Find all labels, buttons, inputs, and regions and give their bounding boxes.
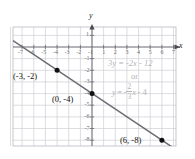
- x-tick-label--7: -7: [18, 49, 23, 55]
- y-tick-label--5: -5: [85, 101, 90, 107]
- x-tick-label-5: 5: [149, 49, 152, 55]
- equation-connector-or: or: [131, 72, 138, 81]
- graph-figure: x y -7 -6 -5 -4 -3 -2 -1 1 2 3 4 5 6 7 1…: [0, 0, 195, 159]
- equation-standard-form: 3y = -2x - 12: [108, 59, 152, 68]
- point-label-0-minus4: (0, -4): [52, 95, 73, 104]
- y-tick-label-1: 1: [86, 31, 89, 37]
- y-tick-label--2: -2: [85, 67, 90, 73]
- y-tick-label--6: -6: [85, 113, 90, 119]
- x-tick-label--2: -2: [76, 49, 81, 55]
- y-tick-label--8: -8: [85, 136, 90, 142]
- y-tick-label--4: -4: [85, 90, 90, 96]
- x-tick-label-6: 6: [160, 49, 163, 55]
- y-tick-label--7: -7: [85, 125, 90, 131]
- y-tick-label--1: -1: [85, 55, 90, 61]
- data-point-marker: [55, 68, 60, 73]
- x-tick-label-4: 4: [137, 49, 140, 55]
- x-tick-label-1: 1: [102, 49, 105, 55]
- point-label-minus3-minus2: (-3, -2): [13, 72, 37, 81]
- x-tick-label-7: 7: [172, 49, 175, 55]
- x-tick-label-2: 2: [114, 49, 117, 55]
- equation-equals-sign: =: [116, 87, 124, 97]
- equation-constant: - 4: [136, 87, 147, 97]
- data-point-marker: [90, 91, 95, 96]
- point-label-6-minus8: (6, -8): [120, 136, 141, 145]
- x-tick-label--5: -5: [41, 49, 46, 55]
- y-tick-label--3: -3: [85, 78, 90, 84]
- x-tick-label-3: 3: [126, 49, 129, 55]
- x-axis-label: x: [179, 42, 183, 50]
- x-tick-label--6: -6: [30, 49, 35, 55]
- data-point-marker: [159, 138, 164, 143]
- y-axis-label: y: [89, 12, 93, 20]
- x-tick-label--3: -3: [65, 49, 70, 55]
- x-tick-label--4: -4: [53, 49, 58, 55]
- equation-slope-intercept-form: y=-23x- 4: [112, 83, 147, 100]
